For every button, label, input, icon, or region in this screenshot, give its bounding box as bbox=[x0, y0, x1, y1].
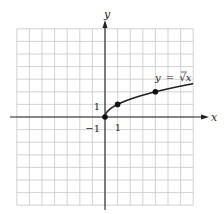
x-tick-label-1: 1 bbox=[115, 122, 121, 133]
sqrt-function-graph: y x 1 −1 1 y = √x bbox=[0, 0, 224, 214]
y-tick-label-neg1: −1 bbox=[85, 123, 100, 134]
x-axis-arrow-icon bbox=[201, 115, 209, 120]
data-point bbox=[102, 114, 108, 120]
y-axis-arrow-icon bbox=[103, 20, 108, 28]
function-label: y = √x bbox=[154, 72, 192, 83]
y-tick-label-1: 1 bbox=[94, 101, 100, 112]
function-label-text: y = √x bbox=[154, 72, 192, 83]
data-point bbox=[153, 89, 159, 95]
data-point bbox=[115, 102, 121, 108]
y-axis-label: y bbox=[103, 8, 111, 21]
x-axis-label: x bbox=[211, 111, 218, 124]
axes bbox=[10, 20, 209, 210]
sqrt-curve bbox=[105, 84, 193, 117]
